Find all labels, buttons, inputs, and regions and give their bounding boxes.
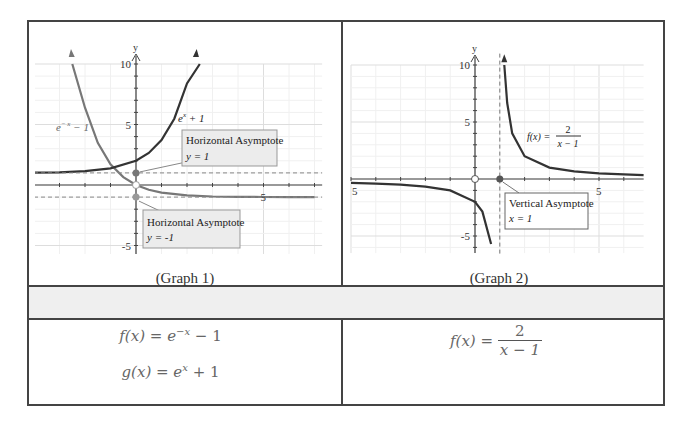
arrow-icon [69, 49, 75, 57]
asymptote-point [133, 194, 140, 201]
arrow-icon [501, 54, 507, 62]
annotation-eq: y = -1 [146, 231, 174, 243]
y-axis-label: y [133, 42, 138, 53]
series-label-f: e− x − 1 [56, 120, 89, 133]
y-tick-label: -5 [122, 240, 132, 252]
curve-label-lhs: f(x) = [527, 131, 550, 143]
formula-f2: f(x) = 2x − 1 [450, 322, 542, 359]
asymptote-point [496, 176, 503, 183]
caption-graph-1: (Graph 1) [29, 270, 341, 287]
y-tick-label: 5 [126, 119, 132, 131]
curve-label-num: 2 [566, 124, 571, 135]
x-tick-label: 5 [596, 185, 602, 197]
arrow-icon [193, 49, 199, 57]
y-tick-label: 5 [465, 116, 471, 128]
series-label-g: ex + 1 [178, 111, 204, 124]
callout-line [503, 182, 519, 193]
annotation-title: Horizontal Asymptote [147, 216, 245, 228]
x-tick-label: 5 [352, 185, 358, 197]
formula-g1: g(x) = ex + 1 [0, 362, 341, 381]
origin-point [472, 176, 479, 183]
origin-point [133, 182, 140, 189]
y-tick-label: 10 [459, 59, 471, 71]
y-axis-label: y [472, 43, 477, 54]
column-divider [341, 22, 343, 404]
row-divider [29, 318, 663, 320]
y-tick-label: 10 [120, 58, 132, 70]
graph-2-plot: y105-555f(x) =2x − 1Vertical Asymptotex … [347, 30, 647, 265]
y-tick-label: -5 [461, 230, 471, 242]
annotation-eq: x = 1 [508, 212, 532, 224]
curve-label-den: x − 1 [556, 138, 578, 149]
formula-f1: f(x) = e−x − 1 [0, 326, 341, 345]
asymptote-point [133, 169, 140, 176]
caption-graph-2: (Graph 2) [343, 270, 655, 287]
caption-row [29, 287, 663, 320]
annotation-eq: y = 1 [185, 150, 209, 162]
annotation-title: Vertical Asymptote [509, 197, 594, 209]
annotation-title: Horizontal Asymptote [186, 134, 284, 146]
graph-1-plot: y105-55e− x − 1ex + 1Horizontal Asymptot… [35, 30, 325, 265]
